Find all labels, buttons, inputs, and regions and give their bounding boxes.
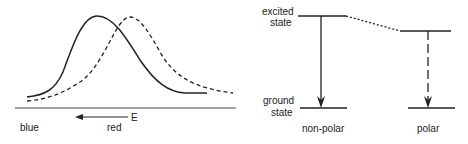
ground-state-label-line1: ground bbox=[263, 95, 294, 106]
excited-state-label-line1: excited bbox=[262, 6, 294, 17]
solvatochromism-diagram: E blue red excited state ground state no… bbox=[0, 0, 468, 144]
stabilization-dotted-line bbox=[346, 16, 400, 31]
ground-state-label-line2: state bbox=[271, 107, 293, 118]
energy-arrow-head-icon bbox=[75, 114, 83, 120]
polar-label: polar bbox=[417, 123, 440, 134]
energy-label: E bbox=[131, 112, 138, 123]
nonpolar-label: non-polar bbox=[302, 123, 345, 134]
dashed-spectrum-curve bbox=[27, 17, 233, 101]
excited-state-label-line2: state bbox=[270, 17, 292, 28]
red-label: red bbox=[107, 122, 121, 133]
blue-label: blue bbox=[20, 122, 39, 133]
spectra-panel: E blue red bbox=[15, 16, 236, 133]
energy-level-panel: excited state ground state non-polar pol… bbox=[262, 6, 455, 134]
